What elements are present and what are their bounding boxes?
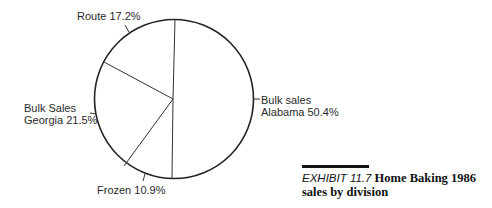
label-alabama-line2: Alabama 50.4% xyxy=(261,106,339,118)
label-georgia-line1: Bulk Sales xyxy=(24,102,97,114)
exhibit-number: EXHIBIT 11.7 xyxy=(302,172,371,184)
label-georgia-line2: Georgia 21.5% xyxy=(24,114,97,126)
caption-title-line1: Home Baking 1986 xyxy=(375,171,476,185)
label-alabama: Bulk sales Alabama 50.4% xyxy=(261,94,339,118)
label-alabama-line1: Bulk sales xyxy=(261,94,339,106)
caption-rule xyxy=(302,165,369,168)
caption-title-line2: sales by division xyxy=(302,185,388,199)
divider-georgia-frozen xyxy=(124,99,173,166)
divider-alabama-frozen xyxy=(172,99,173,179)
label-georgia: Bulk Sales Georgia 21.5% xyxy=(24,102,97,126)
divider-route-georgia xyxy=(104,62,173,99)
label-frozen: Frozen 10.9% xyxy=(97,184,165,196)
leader-route xyxy=(125,25,129,32)
figure-caption: EXHIBIT 11.7 Home Baking 1986 sales by d… xyxy=(302,171,492,199)
divider-alabama-route xyxy=(173,20,175,100)
label-route: Route 17.2% xyxy=(77,10,141,22)
leader-frozen xyxy=(143,174,145,181)
